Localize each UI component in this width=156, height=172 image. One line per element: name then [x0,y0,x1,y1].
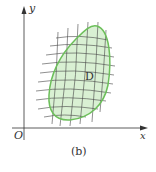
x-axis-label: x [140,130,146,141]
y-axis-label: y [29,2,35,15]
region-label: D [85,70,94,83]
y-axis-arrow-icon [22,6,27,14]
origin-label: O [14,129,23,142]
figure-caption: (b) [71,145,87,158]
